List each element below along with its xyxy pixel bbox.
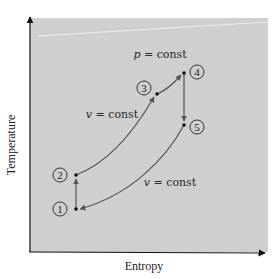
- svg-text:2: 2: [57, 169, 63, 181]
- x-axis: [29, 252, 265, 253]
- y-axis-label: Temperature: [4, 115, 18, 175]
- annotation-v-const-upper: v = const: [86, 108, 139, 121]
- annotation-v-const-lower: v = const: [144, 176, 197, 189]
- ts-diagram: 1 2 3 4 5 p = const v = const v = const …: [0, 0, 279, 279]
- state-point-2: [74, 173, 78, 177]
- svg-text:5: 5: [194, 121, 200, 133]
- svg-text:4: 4: [194, 66, 200, 78]
- annotation-p-const: p = const: [133, 48, 187, 61]
- state-point-1: [74, 207, 78, 211]
- state-point-4: [182, 71, 186, 75]
- svg-text:1: 1: [57, 203, 63, 215]
- x-axis-label: Entropy: [125, 259, 164, 273]
- state-point-5: [182, 123, 186, 127]
- state-point-3: [155, 92, 159, 96]
- svg-text:3: 3: [141, 82, 147, 94]
